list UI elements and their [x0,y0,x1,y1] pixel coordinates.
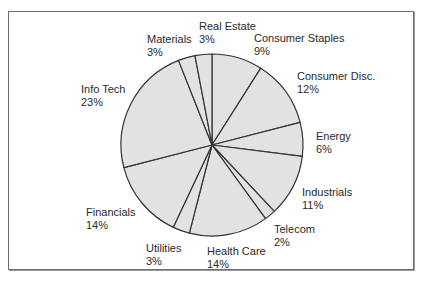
slice-label: Health Care [207,245,266,258]
slice-label: Info Tech [81,83,125,96]
label-materials: Materials 3% [147,33,192,59]
label-health-care: Health Care 14% [207,245,266,271]
slice-value: 14% [86,219,136,232]
label-industrials: Industrials 11% [302,186,352,212]
slice-value: 14% [207,258,266,271]
slice-value: 3% [146,255,181,268]
slice-label: Telecom [274,223,315,236]
slice-value: 3% [147,46,192,59]
slice-label: Utilities [146,242,181,255]
slice-value: 2% [274,236,315,249]
slice-value: 12% [297,83,375,96]
slice-label: Consumer Disc. [297,70,375,83]
label-consumer-disc: Consumer Disc. 12% [297,70,375,96]
slice-label: Consumer Staples [254,32,345,45]
label-utilities: Utilities 3% [146,242,181,268]
slice-value: 6% [316,143,351,156]
label-real-estate: Real Estate 3% [199,20,256,46]
label-consumer-staples: Consumer Staples 9% [254,32,345,58]
label-info-tech: Info Tech 23% [81,83,125,109]
slice-value: 3% [199,33,256,46]
slice-value: 23% [81,96,125,109]
slice-label: Energy [316,130,351,143]
slice-value: 9% [254,45,345,58]
label-financials: Financials 14% [86,206,136,232]
slice-label: Materials [147,33,192,46]
label-energy: Energy 6% [316,130,351,156]
slice-label: Real Estate [199,20,256,33]
slice-label: Industrials [302,186,352,199]
slice-label: Financials [86,206,136,219]
label-telecom: Telecom 2% [274,223,315,249]
slice-value: 11% [302,199,352,212]
